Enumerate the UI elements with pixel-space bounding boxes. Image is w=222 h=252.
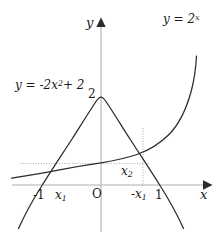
x2-base: x: [121, 164, 128, 178]
parabola-label-base: y = -2x: [15, 78, 58, 92]
x1-label: x1: [55, 189, 67, 203]
neg-x1-subscript: 1: [142, 193, 147, 202]
exponential-label-base: y = 2: [163, 12, 195, 26]
neg-x1-label: -x1: [131, 188, 147, 202]
x1-base: x: [55, 188, 62, 202]
x-tick-label-1: 1: [155, 189, 163, 201]
exponential-label-exponent: x: [195, 13, 199, 22]
x2-label: x2: [121, 165, 133, 179]
coordinate-plot: [0, 0, 222, 252]
x2-subscript: 2: [128, 170, 133, 179]
x-tick-label-neg-1: -1: [33, 189, 45, 201]
graph-figure: y x y = 2x y = -2x2+ 2 2 O -1 1 x1 x2 -x…: [0, 0, 222, 252]
exponential-curve: [12, 56, 197, 178]
x-axis-label: x: [200, 188, 207, 201]
exponential-curve-label: y = 2x: [163, 13, 200, 25]
y-axis-arrowhead: [96, 18, 105, 28]
parabola-curve-label: y = -2x2+ 2: [15, 79, 84, 91]
x1-subscript: 1: [62, 194, 67, 203]
y-tick-label-2: 2: [88, 88, 96, 100]
y-axis-label: y: [86, 16, 93, 29]
neg-x1-base: -x: [131, 187, 142, 201]
origin-label: O: [92, 188, 102, 200]
parabola-label-tail: + 2: [63, 78, 85, 92]
